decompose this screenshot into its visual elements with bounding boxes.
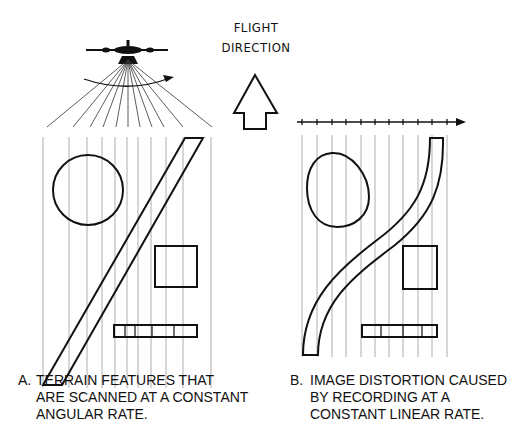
caption-b-line: CONSTANT LINEAR RATE. xyxy=(310,406,507,423)
caption-a-line: ANGULAR RATE. xyxy=(36,406,248,423)
terrain-segmented-bar xyxy=(114,325,197,337)
panel-a-scan-lines xyxy=(43,137,211,388)
scanner-distortion-diagram: FLIGHT DIRECTION A. TERRAIN FEATURES THA… xyxy=(0,0,528,443)
caption-b: B. IMAGE DISTORTION CAUSED BY RECORDING … xyxy=(290,372,525,432)
flight-direction-label: FLIGHT DIRECTION xyxy=(220,18,292,58)
scan-rays xyxy=(47,60,212,127)
caption-a-letter: A. xyxy=(18,372,31,389)
terrain-diagonal-road xyxy=(43,138,203,385)
caption-b-line: IMAGE DISTORTION CAUSED xyxy=(310,372,507,389)
scan-sweep-arrow-icon xyxy=(84,75,174,86)
terrain-square xyxy=(155,246,197,287)
panel-a-features xyxy=(43,138,203,385)
terrain-circle xyxy=(53,155,123,225)
distorted-oval xyxy=(307,153,369,227)
flight-label-line2: DIRECTION xyxy=(220,38,292,58)
caption-a: A. TERRAIN FEATURES THAT ARE SCANNED AT … xyxy=(18,372,278,432)
linear-rate-arrow-icon xyxy=(297,118,466,126)
flight-direction-arrow-icon xyxy=(234,75,277,129)
panel-b-features xyxy=(303,138,443,355)
caption-a-line: ARE SCANNED AT A CONSTANT xyxy=(36,389,248,406)
caption-b-line: BY RECORDING AT A xyxy=(310,389,507,406)
caption-a-line: TERRAIN FEATURES THAT xyxy=(36,372,248,389)
flight-label-line1: FLIGHT xyxy=(220,18,292,38)
caption-b-letter: B. xyxy=(290,372,303,389)
distorted-segmented-bar xyxy=(362,325,437,337)
